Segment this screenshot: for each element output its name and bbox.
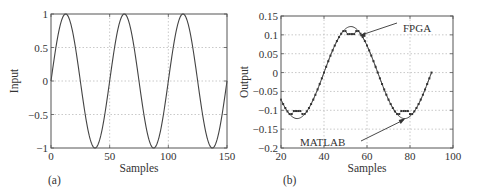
figure: 050100150−1−0.500.51SamplesInput(a) FPGA… — [0, 0, 477, 195]
x-tick-label: 50 — [104, 150, 116, 162]
fpga-marker — [347, 33, 349, 35]
fpga-marker — [375, 66, 377, 68]
chart-panel-a: 050100150−1−0.500.51SamplesInput(a) — [8, 8, 236, 187]
fpga-marker — [334, 45, 336, 47]
fpga-marker — [293, 110, 295, 112]
fpga-marker — [418, 103, 420, 105]
fpga-marker — [323, 72, 325, 74]
y-tick-label: −0.1 — [258, 104, 278, 116]
fpga-marker — [431, 72, 433, 74]
fpga-marker — [400, 110, 402, 112]
fpga-marker — [357, 30, 359, 32]
y-tick-label: 0.5 — [34, 42, 48, 54]
y-tick-label: 1 — [43, 8, 49, 20]
fpga-marker — [407, 110, 409, 112]
fpga-marker — [321, 77, 323, 79]
fpga-marker — [314, 94, 316, 96]
y-tick-label: 0.1 — [264, 29, 278, 41]
y-tick-label: −0.2 — [258, 142, 278, 154]
fpga-marker — [385, 94, 387, 96]
fpga-marker — [420, 99, 422, 101]
y-tick-label: −0.15 — [253, 123, 279, 135]
fpga-marker — [383, 89, 385, 91]
annotation-matlab: MATLAB — [300, 136, 345, 148]
y-tick-label: −0.5 — [28, 109, 48, 121]
panel-label: (b) — [283, 174, 297, 187]
y-tick-label: 0 — [273, 67, 279, 79]
fpga-marker — [336, 40, 338, 42]
fpga-marker — [398, 113, 400, 115]
fpga-marker — [392, 107, 394, 109]
fpga-marker — [345, 30, 347, 32]
x-axis-label: Samples — [120, 162, 159, 175]
matlab-arrow-head — [399, 118, 406, 124]
y-axis-label: Input — [8, 68, 21, 93]
x-tick-label: 60 — [362, 150, 374, 162]
fpga-marker — [295, 110, 297, 112]
fpga-marker — [428, 77, 430, 79]
matlab-arrow-line — [361, 120, 404, 141]
fpga-marker — [368, 49, 370, 51]
fpga-marker — [396, 113, 398, 115]
fpga-marker — [327, 60, 329, 62]
y-tick-label: 0.05 — [259, 48, 279, 60]
panel-label: (a) — [48, 174, 61, 187]
y-tick-label: 0.15 — [259, 10, 279, 22]
chart-panel-b: FPGAMATLAB20406080100−0.2−0.15−0.1−0.050… — [238, 10, 462, 187]
y-tick-label: −0.05 — [253, 85, 279, 97]
fpga-marker — [379, 77, 381, 79]
fpga-marker — [297, 110, 299, 112]
fpga-marker — [388, 99, 390, 101]
fpga-marker — [355, 30, 357, 32]
fpga-marker — [282, 103, 284, 105]
fpga-marker — [338, 36, 340, 38]
fpga-marker — [377, 72, 379, 74]
series-fpga-line — [281, 31, 432, 114]
fpga-marker — [351, 33, 353, 35]
fpga-marker — [302, 113, 304, 115]
series-matlab-line — [281, 27, 432, 119]
fpga-marker — [284, 107, 286, 109]
fpga-marker — [289, 113, 291, 115]
y-tick-label: 0 — [43, 75, 49, 87]
fpga-marker — [364, 40, 366, 42]
fpga-marker — [312, 99, 314, 101]
fpga-marker — [299, 110, 301, 112]
fpga-marker — [291, 113, 293, 115]
fpga-marker — [372, 60, 374, 62]
fpga-marker — [409, 113, 411, 115]
x-tick-label: 0 — [48, 150, 54, 162]
x-tick-label: 40 — [319, 150, 331, 162]
x-axis-label: Samples — [348, 162, 387, 175]
y-axis-label: Output — [238, 65, 251, 98]
fpga-marker — [405, 110, 407, 112]
x-tick-label: 100 — [445, 150, 462, 162]
fpga-marker — [286, 110, 288, 112]
fpga-marker — [325, 66, 327, 68]
fpga-marker — [415, 107, 417, 109]
fpga-marker — [381, 83, 383, 85]
fpga-marker — [319, 83, 321, 85]
fpga-marker — [308, 107, 310, 109]
fpga-marker — [306, 110, 308, 112]
fpga-marker — [403, 110, 405, 112]
fpga-marker — [310, 103, 312, 105]
fpga-arrow-line — [361, 23, 397, 35]
fpga-marker — [349, 33, 351, 35]
fpga-marker — [332, 49, 334, 51]
fpga-marker — [353, 33, 355, 35]
fpga-marker — [422, 94, 424, 96]
x-tick-label: 80 — [405, 150, 417, 162]
fpga-marker — [411, 113, 413, 115]
fpga-marker — [366, 45, 368, 47]
x-tick-label: 150 — [219, 150, 236, 162]
fpga-marker — [360, 33, 362, 35]
fpga-marker — [413, 110, 415, 112]
fpga-marker — [424, 89, 426, 91]
fpga-marker — [304, 113, 306, 115]
fpga-marker — [426, 83, 428, 85]
y-tick-label: −1 — [36, 142, 48, 154]
fpga-marker — [394, 110, 396, 112]
x-tick-label: 100 — [160, 150, 177, 162]
fpga-marker — [342, 30, 344, 32]
